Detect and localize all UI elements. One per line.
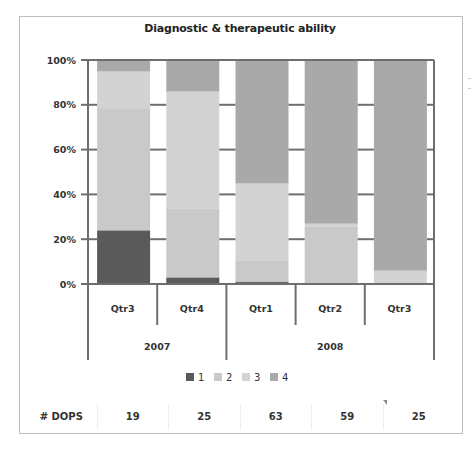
legend-swatch-3 <box>242 373 250 381</box>
bar-segment-4 <box>305 60 358 224</box>
bar-segment-3 <box>236 183 289 261</box>
bar-segment-3 <box>305 224 358 228</box>
y-tick-label: 100% <box>47 55 77 66</box>
x-category-label: Qtr3 <box>387 303 411 314</box>
legend-swatch-2 <box>214 373 222 381</box>
y-tick-label: 0% <box>60 279 77 290</box>
x-category-label: Qtr4 <box>180 303 204 314</box>
bar-segment-2 <box>236 262 289 282</box>
bar-segment-4 <box>166 60 219 91</box>
bar-segment-2 <box>305 228 358 284</box>
bar-segment-2 <box>166 210 219 277</box>
bar-segment-4 <box>374 60 427 271</box>
bar-segment-2 <box>97 109 150 230</box>
dops-value: 59 <box>312 404 384 430</box>
x-category-label: Qtr3 <box>111 303 135 314</box>
bar-segment-4 <box>97 60 150 71</box>
y-tick-label: 20% <box>53 234 76 245</box>
x-category-label: Qtr1 <box>249 303 273 314</box>
x-category-label: Qtr2 <box>318 303 342 314</box>
y-tick-label: 60% <box>53 144 76 155</box>
cell-marker-icon <box>383 400 387 405</box>
y-tick-label: 80% <box>53 99 76 110</box>
stacked-bar-chart: 0%20%40%60%80%100%Qtr3Qtr4Qtr1Qtr2Qtr320… <box>0 0 475 400</box>
x-group-label: 2008 <box>317 341 344 352</box>
legend-label: 2 <box>226 372 232 383</box>
legend-swatch-1 <box>186 373 194 381</box>
bar-segment-1 <box>166 277 219 284</box>
dops-value: 19 <box>98 404 170 430</box>
dops-value: 25 <box>169 404 241 430</box>
legend-label: 1 <box>198 372 204 383</box>
dops-table: # DOPS 19 25 63 59 25 <box>26 404 454 430</box>
edge-mark <box>468 78 471 79</box>
dops-row-label: # DOPS <box>26 404 98 430</box>
y-tick-label: 40% <box>53 189 76 200</box>
bar-segment-3 <box>166 91 219 210</box>
dops-value: 63 <box>241 404 313 430</box>
bar-segment-4 <box>236 60 289 183</box>
edge-mark <box>468 88 471 89</box>
bar-segment-3 <box>374 271 427 284</box>
legend-label: 4 <box>282 372 288 383</box>
bar-segment-1 <box>97 230 150 284</box>
bar-segment-3 <box>97 71 150 109</box>
x-group-label: 2007 <box>144 341 170 352</box>
legend-swatch-4 <box>270 373 278 381</box>
dops-value: 25 <box>384 404 455 430</box>
legend-label: 3 <box>254 372 260 383</box>
